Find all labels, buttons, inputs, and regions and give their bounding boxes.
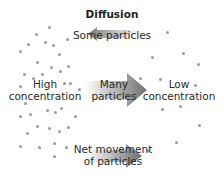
particle xyxy=(50,66,53,69)
low-concentration-label: Low concentration xyxy=(142,78,216,102)
particle xyxy=(53,142,56,145)
particle xyxy=(48,127,51,130)
particle xyxy=(58,130,61,133)
high-concentration-label: High concentration xyxy=(8,78,82,102)
particle xyxy=(19,50,22,53)
particle xyxy=(46,109,49,112)
particle xyxy=(35,33,38,36)
particle xyxy=(27,43,30,46)
particle xyxy=(60,107,63,110)
particle xyxy=(19,115,22,118)
particle xyxy=(66,38,69,41)
particle xyxy=(52,44,55,47)
particle xyxy=(151,56,154,59)
particle xyxy=(36,61,39,64)
particle xyxy=(74,115,77,118)
particle xyxy=(175,141,178,144)
particle xyxy=(166,31,169,34)
particle xyxy=(182,52,185,55)
particle xyxy=(26,132,29,135)
particle xyxy=(161,108,164,111)
particle xyxy=(24,102,27,105)
particle xyxy=(179,105,182,108)
particle xyxy=(53,155,56,158)
particle xyxy=(67,65,70,68)
particle xyxy=(23,73,26,76)
particle xyxy=(38,146,41,149)
particle xyxy=(44,41,47,44)
many-particles-label: Many particles xyxy=(88,78,140,102)
particle xyxy=(58,53,61,56)
diagram-title: Diffusion xyxy=(0,8,224,20)
particle xyxy=(29,113,32,116)
some-particles-label: Some particles xyxy=(72,29,152,41)
particle xyxy=(48,26,51,29)
particle xyxy=(67,126,70,129)
particle xyxy=(59,70,62,73)
particle xyxy=(54,111,57,114)
particle xyxy=(197,63,200,66)
particle xyxy=(19,145,22,148)
net-movement-label: Net movement of particles xyxy=(68,143,158,167)
particle xyxy=(36,125,39,128)
particle xyxy=(41,73,44,76)
particle xyxy=(198,124,201,127)
